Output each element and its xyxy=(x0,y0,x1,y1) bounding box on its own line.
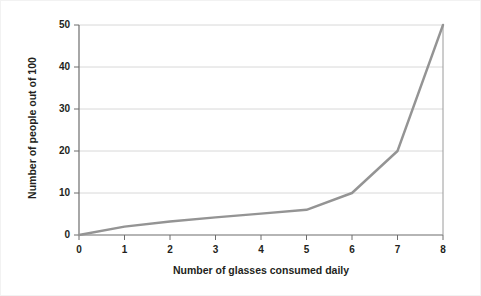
xtick-label-3: 3 xyxy=(206,245,226,255)
xtick-label-8: 8 xyxy=(433,245,453,255)
ytick-label-0: 0 xyxy=(48,230,70,240)
x-axis-ticks xyxy=(79,235,443,240)
xtick-label-4: 4 xyxy=(251,245,271,255)
xtick-label-2: 2 xyxy=(160,245,180,255)
ytick-label-30: 30 xyxy=(48,104,70,114)
x-axis-title: Number of glasses consumed daily xyxy=(79,264,443,276)
ytick-label-20: 20 xyxy=(48,146,70,156)
ytick-label-50: 50 xyxy=(48,20,70,30)
xtick-label-6: 6 xyxy=(342,245,362,255)
gridlines xyxy=(79,25,443,193)
xtick-label-7: 7 xyxy=(388,245,408,255)
ytick-label-10: 10 xyxy=(48,188,70,198)
axis-lines xyxy=(79,25,443,235)
xtick-label-1: 1 xyxy=(115,245,135,255)
y-axis-ticks xyxy=(74,25,79,235)
chart-figure: 0 10 20 30 40 50 0 1 2 3 4 5 6 7 8 Numbe… xyxy=(0,0,481,296)
y-axis-title: Number of people out of 100 xyxy=(26,38,38,218)
xtick-label-0: 0 xyxy=(69,245,89,255)
data-series-line xyxy=(79,25,443,235)
xtick-label-5: 5 xyxy=(297,245,317,255)
ytick-label-40: 40 xyxy=(48,62,70,72)
